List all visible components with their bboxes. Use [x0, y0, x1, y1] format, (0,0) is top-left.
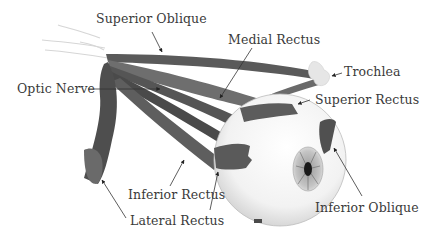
- label-superior-rectus: Superior Rectus: [315, 94, 419, 107]
- leader-medial-rectus: [220, 48, 252, 98]
- label-inferior-oblique: Inferior Oblique: [315, 202, 419, 215]
- leader-inferior-rectus: [170, 160, 184, 186]
- leader-lateral-rectus: [102, 180, 126, 218]
- label-lateral-rectus: Lateral Rectus: [130, 215, 224, 228]
- eye-bottom-marker: [254, 219, 262, 223]
- inferior-rectus-insertion: [214, 144, 252, 170]
- leader-trochlea: [332, 73, 342, 76]
- label-trochlea: Trochlea: [344, 66, 401, 79]
- nerve-wisps: [42, 25, 108, 58]
- label-superior-oblique: Superior Oblique: [96, 13, 207, 26]
- leader-superior-oblique: [152, 32, 162, 52]
- label-medial-rectus: Medial Rectus: [228, 34, 320, 47]
- label-optic-nerve: Optic Nerve: [17, 83, 95, 96]
- label-inferior-rectus: Inferior Rectus: [128, 189, 225, 202]
- pupil: [304, 162, 312, 176]
